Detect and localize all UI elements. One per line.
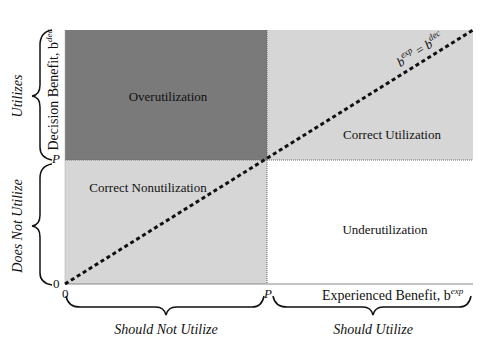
x-axis-label: Experienced Benefit, bexp: [322, 288, 463, 304]
x-axis-label-sup: exp: [451, 286, 464, 296]
x-axis-label-text: Experienced Benefit, b: [322, 288, 451, 303]
brace-label-should-not-utilize: Should Not Utilize: [114, 322, 217, 338]
y-axis-label-text: Decision Benefit, b: [46, 42, 61, 150]
label-underutilization: Underutilization: [342, 222, 427, 238]
brace-label-does-not-utilize: Does Not Utilize: [10, 179, 26, 272]
label-correct-utilization: Correct Utilization: [343, 127, 441, 143]
brace-label-utilizes: Utilizes: [10, 75, 26, 118]
brace-label-should-utilize: Should Utilize: [333, 322, 413, 338]
diagonal-line: [65, 30, 473, 284]
x-tick-p: P: [264, 286, 272, 302]
brace-does-not-utilize: [32, 164, 52, 285]
y-axis-label-sup: dec: [44, 30, 54, 43]
y-axis-label: Decision Benefit, bdec: [46, 30, 62, 151]
x-tick-zero: 0: [62, 286, 69, 302]
label-correct-nonutilization: Correct Nonutilization: [89, 180, 206, 196]
y-tick-zero: 0: [53, 276, 60, 292]
y-tick-p: P: [52, 151, 60, 167]
label-overutilization: Overutilization: [129, 89, 208, 105]
brace-should-not-utilize: [66, 296, 264, 315]
